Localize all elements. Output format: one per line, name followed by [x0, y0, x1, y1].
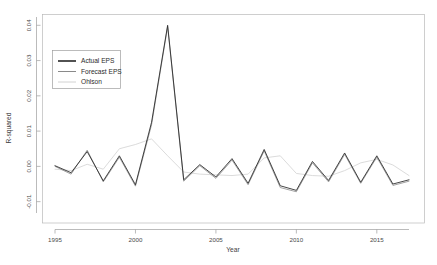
- y-tick-label: -0.01: [25, 194, 32, 209]
- chart-legend: Actual EPSForecast EPSOhlson: [53, 51, 123, 89]
- y-tick-label: 0.04: [25, 19, 32, 32]
- r-squared-line-chart: -0.010.000.010.020.030.04 R-squared 1995…: [0, 0, 437, 265]
- x-axis: 19952000200520102015 Year: [48, 230, 409, 254]
- plot-frame: [43, 15, 425, 224]
- y-axis: -0.010.000.010.020.030.04 R-squared: [5, 17, 41, 213]
- x-tick-label: 2000: [129, 236, 143, 243]
- series-line-ohlson: [55, 139, 409, 176]
- legend-label-ohlson: Ohlson: [81, 78, 102, 85]
- chart-container: -0.010.000.010.020.030.04 R-squared 1995…: [0, 0, 437, 265]
- x-tick-label: 1995: [48, 236, 62, 243]
- x-tick-label: 2010: [289, 236, 303, 243]
- x-tick-label: 2015: [370, 236, 384, 243]
- x-axis-title: Year: [226, 246, 240, 253]
- legend-label-forecast-eps: Forecast EPS: [81, 68, 122, 75]
- y-tick-label: 0.02: [25, 89, 32, 102]
- y-tick-label: 0.01: [25, 125, 32, 138]
- legend-label-actual-eps: Actual EPS: [81, 57, 115, 64]
- y-axis-title: R-squared: [5, 112, 13, 143]
- x-tick-label: 2005: [209, 236, 223, 243]
- y-tick-label: 0.03: [25, 54, 32, 67]
- y-tick-label: 0.00: [25, 160, 32, 173]
